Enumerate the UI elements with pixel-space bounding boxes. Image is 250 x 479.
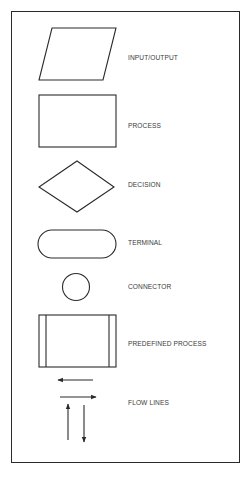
label-process: PROCESS: [128, 122, 161, 130]
label-decision: DECISION: [128, 181, 161, 189]
terminal-icon: [38, 230, 116, 258]
label-terminal: TERMINAL: [128, 239, 162, 247]
predefined-process-icon: [39, 315, 116, 367]
label-input-output: INPUT/OUTPUT: [128, 54, 178, 62]
label-flow-lines: FLOW LINES: [128, 399, 169, 407]
circle-icon: [63, 274, 90, 301]
diamond-icon: [39, 161, 114, 212]
label-connector: CONNECTOR: [128, 283, 171, 291]
parallelogram-icon: [39, 28, 116, 80]
flow-lines-icon: [58, 380, 96, 442]
rectangle-icon: [39, 95, 116, 147]
flowchart-symbols: [0, 0, 250, 479]
label-predefined-process: PREDEFINED PROCESS: [128, 340, 206, 348]
